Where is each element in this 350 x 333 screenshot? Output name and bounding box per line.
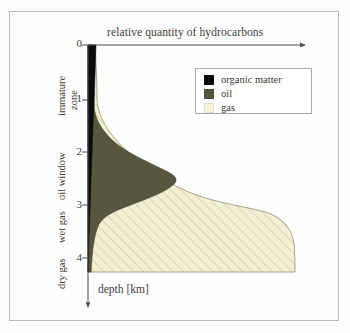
zone-label-oil-window: oil window bbox=[56, 152, 67, 200]
hydrocarbon-depth-chart bbox=[0, 0, 350, 333]
chart-title: relative quantity of hydrocarbons bbox=[107, 26, 263, 38]
legend-swatch-gas bbox=[204, 103, 214, 113]
legend-swatch-oil bbox=[204, 89, 214, 99]
zone-label-wet-gas: wet gas bbox=[56, 211, 67, 243]
legend-item-oil: oil bbox=[204, 87, 311, 100]
chart-legend: organic matter oil gas bbox=[195, 68, 312, 114]
legend-label-oil: oil bbox=[221, 88, 232, 99]
depth-tick-label-2: 2 bbox=[70, 145, 82, 157]
legend-swatch-organic-matter bbox=[204, 75, 214, 85]
legend-label-gas: gas bbox=[221, 102, 235, 113]
legend-item-gas: gas bbox=[204, 101, 311, 114]
zone-label-immature-line1: immature bbox=[56, 76, 67, 116]
depth-tick-label-0: 0 bbox=[70, 37, 82, 49]
legend-item-organic-matter: organic matter bbox=[204, 73, 311, 86]
depth-tick-label-4: 4 bbox=[70, 251, 82, 263]
depth-tick-label-3: 3 bbox=[70, 198, 82, 210]
depth-tick-label-1: 1 bbox=[70, 92, 82, 104]
figure-container: relative quantity of hydrocarbons immatu… bbox=[0, 0, 350, 333]
zone-label-dry-gas: dry gas bbox=[56, 258, 67, 289]
depth-axis-label: depth [km] bbox=[98, 283, 149, 295]
legend-label-organic-matter: organic matter bbox=[221, 74, 282, 85]
